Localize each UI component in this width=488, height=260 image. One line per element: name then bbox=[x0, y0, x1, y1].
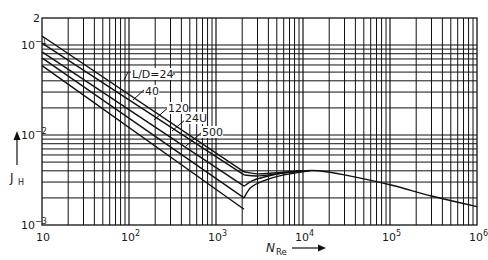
x-tick-label: 10 bbox=[36, 231, 50, 244]
x-tick-label: 106 bbox=[469, 229, 488, 244]
x-tick-label: 103 bbox=[208, 229, 227, 244]
x-tick-label: 102 bbox=[121, 229, 140, 244]
x-axis-arrowhead-icon bbox=[318, 245, 326, 252]
y-axis-tick-labels: 210−110−210−3 bbox=[21, 12, 47, 232]
y-axis-label-main: J bbox=[9, 171, 14, 185]
x-axis-tick-labels: 10102103104105106 bbox=[36, 229, 488, 244]
curve-label: 24U bbox=[185, 112, 207, 125]
x-tick-label: 104 bbox=[295, 229, 314, 244]
jh-vs-reynolds-chart: L/D=244012024U500 10102103104105106 210−… bbox=[0, 0, 488, 260]
y-tick-label: 10−3 bbox=[21, 217, 47, 232]
y-axis-label-sub: H bbox=[18, 178, 24, 187]
y-tick-label: 10−1 bbox=[21, 37, 47, 52]
x-axis-label-main: N bbox=[266, 241, 275, 255]
curve-l-d-24 bbox=[42, 36, 244, 172]
curve-label: 40 bbox=[145, 85, 159, 98]
grid-lines bbox=[42, 18, 477, 225]
curve-label: 500 bbox=[202, 126, 223, 139]
y-tick-label: 2 bbox=[33, 12, 40, 25]
y-axis-arrowhead-icon bbox=[14, 131, 21, 140]
x-axis-label-sub: Re bbox=[276, 247, 287, 257]
y-tick-label: 10−2 bbox=[21, 127, 47, 142]
curve-label: L/D=24 bbox=[132, 68, 174, 81]
x-tick-label: 105 bbox=[382, 229, 401, 244]
curves bbox=[42, 36, 477, 209]
